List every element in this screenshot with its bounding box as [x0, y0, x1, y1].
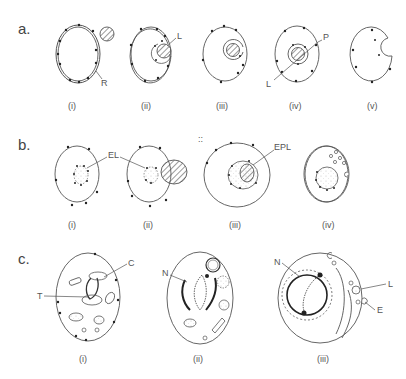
sub-label-a-v: (v) — [367, 101, 378, 111]
sub-label-b-iv: (iv) — [322, 220, 335, 230]
annotation-EL: EL — [108, 150, 119, 160]
annotation-T: T — [37, 291, 43, 301]
panel-a-i: R (i) — [56, 24, 114, 111]
panel-c-i: C T (i) — [37, 253, 135, 364]
panel-a-iii: (iii) — [202, 25, 247, 111]
row-label-a: a. — [18, 20, 31, 37]
row-c: c. C T (i) — [18, 250, 393, 364]
tick-marks: :: — [198, 134, 203, 144]
panel-a-iv: P L (iv) — [266, 26, 329, 111]
panel-b-iii: :: EPL (iii) — [198, 134, 291, 230]
annotation-L: L — [388, 279, 393, 289]
annotation-L: L — [266, 79, 271, 89]
panel-b-iv: (iv) — [304, 146, 349, 230]
panel-a-ii: L (ii) — [130, 27, 182, 111]
sub-label-c-iii: (iii) — [317, 354, 329, 364]
cell-diagram-figure: a. R (i) — [0, 0, 406, 379]
row-a: a. R (i) — [18, 20, 392, 111]
panel-b-i: EL (i) — [55, 146, 119, 230]
annotation-R: R — [101, 78, 108, 88]
panel-b-ii: (ii) — [120, 146, 187, 230]
row-b: b. EL (i) — [18, 134, 349, 230]
sub-label-a-ii: (ii) — [141, 101, 151, 111]
annotation-C: C — [128, 258, 135, 268]
sub-label-a-i: (i) — [68, 101, 76, 111]
annotation-N: N — [162, 268, 169, 278]
sub-label-c-ii: (ii) — [193, 354, 203, 364]
annotation-N: N — [274, 257, 281, 267]
sub-label-a-iii: (iii) — [216, 101, 228, 111]
sub-label-b-iii: (iii) — [229, 220, 241, 230]
sub-label-a-iv: (iv) — [289, 101, 302, 111]
panel-c-ii: N (ii) — [162, 252, 233, 364]
row-label-c: c. — [18, 250, 30, 267]
annotation-P: P — [323, 32, 329, 42]
annotation-E: E — [377, 305, 383, 315]
sub-label-c-i: (i) — [79, 354, 87, 364]
sub-label-b-i: (i) — [68, 220, 76, 230]
panel-c-iii: N L E (iii) — [274, 253, 393, 364]
annotation-L: L — [177, 31, 182, 41]
panel-a-v: (v) — [350, 27, 392, 111]
annotation-EPL: EPL — [274, 142, 291, 152]
row-label-b: b. — [18, 136, 31, 153]
sub-label-b-ii: (ii) — [143, 220, 153, 230]
